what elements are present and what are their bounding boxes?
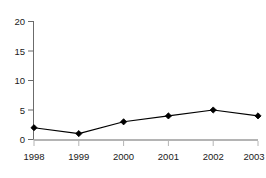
x-tick-label-2003: 2003 (243, 151, 264, 162)
x-tick-label-2002: 2002 (203, 151, 224, 162)
chart-canvas: 20 15 10 5 0 1998 1999 2000 2001 2002 20… (0, 0, 266, 178)
y-tick-label-15: 15 (14, 46, 25, 57)
x-tick-label-2001: 2001 (158, 151, 179, 162)
x-tick-label-2000: 2000 (113, 151, 134, 162)
y-tick-label-5: 5 (20, 105, 25, 116)
y-tick-label-10: 10 (14, 75, 25, 86)
line-chart: 20 15 10 5 0 1998 1999 2000 2001 2002 20… (0, 0, 266, 178)
x-tick-label-1998: 1998 (23, 151, 44, 162)
y-tick-label-20: 20 (14, 16, 25, 27)
y-tick-label-0: 0 (20, 134, 25, 145)
x-tick-label-1999: 1999 (68, 151, 89, 162)
